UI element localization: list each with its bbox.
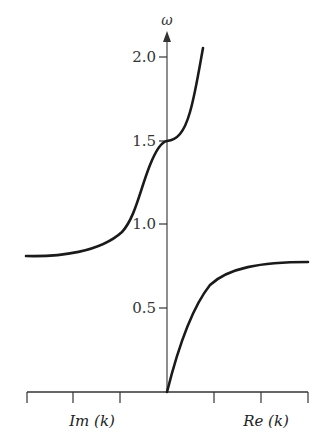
x-axis-ticks bbox=[27, 392, 308, 403]
x-axis-label-im-k: Im (k) bbox=[68, 412, 115, 430]
y-axis-label: ω bbox=[161, 12, 173, 28]
y-tick-label-1-5: 1.5 bbox=[132, 132, 156, 150]
y-axis-arrow-icon bbox=[163, 31, 171, 42]
y-tick-label-1-0: 1.0 bbox=[132, 215, 156, 233]
lower-branch-curve bbox=[167, 262, 308, 392]
y-tick-label-0-5: 0.5 bbox=[132, 299, 156, 317]
x-axis-label-re-k: Re (k) bbox=[242, 412, 289, 430]
y-tick-label-2-0: 2.0 bbox=[132, 48, 156, 66]
dispersion-chart: 0.5 1.0 1.5 2.0 ω Im (k) Re (k) bbox=[0, 0, 327, 448]
y-axis-ticks bbox=[159, 57, 167, 308]
upper-branch-curve bbox=[26, 48, 203, 256]
